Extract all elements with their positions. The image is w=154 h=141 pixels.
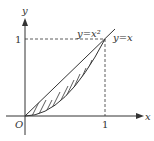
area-between-curves-diagram: x y O 1 1 y=x² y=x <box>0 0 154 141</box>
y-axis-label: y <box>21 5 28 16</box>
line-label: y=x <box>112 32 133 43</box>
x-axis-label: x <box>145 111 151 122</box>
y-tick-label: 1 <box>15 34 21 45</box>
x-tick-label: 1 <box>102 119 108 130</box>
line-y-equals-x <box>25 29 115 116</box>
parabola-label: y=x² <box>76 28 101 39</box>
origin-label: O <box>15 119 23 130</box>
y-axis-arrow-icon <box>22 18 28 26</box>
x-axis-arrow-icon <box>136 113 144 119</box>
